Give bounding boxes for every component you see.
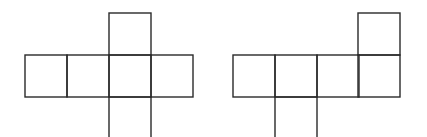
net-left <box>25 13 193 137</box>
square-cell <box>109 97 151 137</box>
cube-nets-figure <box>0 0 427 137</box>
square-cell <box>151 55 193 97</box>
square-cell <box>109 13 151 55</box>
net-right <box>233 13 400 137</box>
square-cell <box>358 55 400 97</box>
square-cell <box>233 55 275 97</box>
square-cell <box>67 55 109 97</box>
diagram-canvas <box>0 0 427 137</box>
square-cell <box>25 55 67 97</box>
square-cell <box>317 55 359 97</box>
square-cell <box>275 55 317 97</box>
square-cell <box>109 55 151 97</box>
square-cell <box>275 97 317 137</box>
square-cell <box>358 13 400 55</box>
